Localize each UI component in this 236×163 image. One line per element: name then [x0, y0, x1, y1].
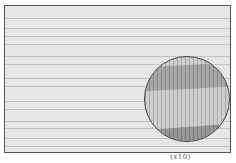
- dark-band-bottom: [145, 124, 229, 142]
- grain-line: [5, 28, 230, 29]
- grain-line: [5, 36, 230, 37]
- grain-line: [5, 18, 230, 19]
- grain-line: [5, 146, 230, 147]
- grain-line: [5, 44, 230, 45]
- magnified-inset: [144, 56, 230, 142]
- magnification-caption: (x10): [170, 153, 191, 161]
- dark-band-top: [145, 63, 229, 91]
- wood-sample-photo: [4, 5, 231, 153]
